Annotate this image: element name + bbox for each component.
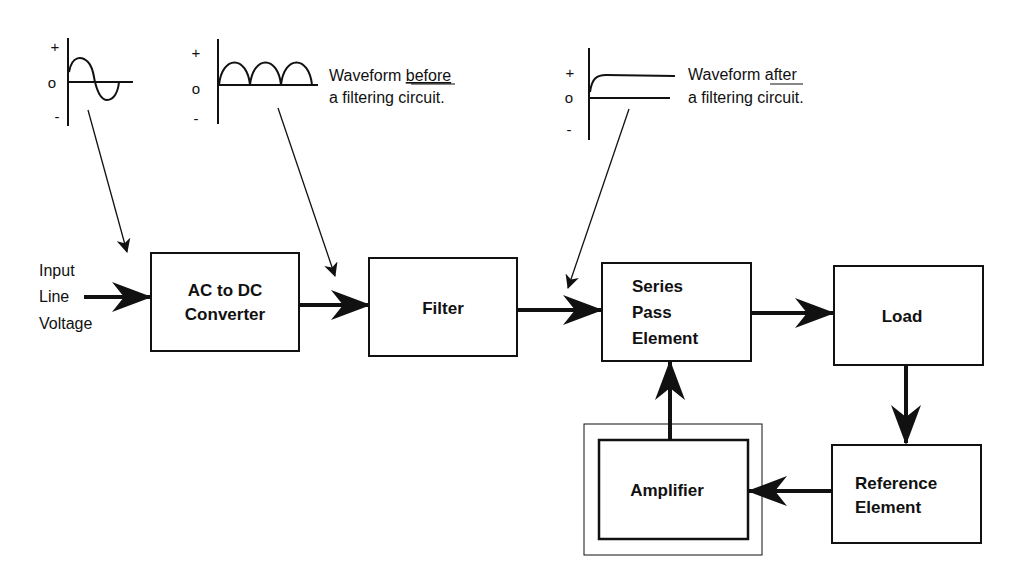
waveform-ac-sine: + o -	[48, 38, 133, 126]
svg-text:Amplifier: Amplifier	[630, 481, 704, 500]
power-supply-block-diagram: + o - + o - Waveform before a filtering …	[0, 0, 1030, 588]
svg-text:Element: Element	[632, 329, 698, 348]
axis-zero: o	[565, 89, 573, 106]
block-series-pass-element: Series Pass Element	[602, 263, 751, 361]
svg-text:AC to DC: AC to DC	[188, 281, 263, 300]
svg-text:Series: Series	[632, 277, 683, 296]
input-label-3: Voltage	[39, 315, 92, 332]
axis-plus: +	[566, 64, 575, 81]
caption-after-line2: a filtering circuit.	[688, 89, 804, 106]
svg-text:Element: Element	[855, 498, 921, 517]
input-label-1: Input	[39, 262, 75, 279]
waveform-filtered: + o - Waveform after a filtering circuit…	[565, 48, 804, 140]
waveform-rectified: + o - Waveform before a filtering circui…	[192, 39, 455, 127]
block-load: Load	[834, 266, 983, 365]
svg-text:Load: Load	[882, 307, 923, 326]
pointer-arrow	[568, 109, 629, 288]
block-filter: Filter	[369, 258, 517, 356]
axis-minus: -	[55, 108, 60, 125]
block-reference-element: Reference Element	[832, 445, 981, 543]
pointer-arrow	[88, 110, 127, 252]
block-ac-dc-converter: AC to DC Converter	[151, 253, 299, 351]
axis-minus: -	[194, 110, 199, 127]
axis-plus: +	[192, 44, 201, 61]
axis-zero: o	[192, 80, 200, 97]
axis-minus: -	[567, 121, 572, 138]
svg-text:Converter: Converter	[185, 305, 266, 324]
input-label-2: Line	[39, 288, 69, 305]
block-amplifier: Amplifier	[584, 424, 762, 555]
caption-before-line2: a filtering circuit.	[329, 89, 445, 106]
axis-zero: o	[48, 74, 56, 91]
axis-plus: +	[51, 38, 60, 55]
caption-after: Waveform after	[688, 66, 797, 83]
pointer-arrow	[278, 108, 335, 276]
svg-text:Pass: Pass	[632, 303, 672, 322]
caption-before: Waveform before	[329, 67, 451, 84]
svg-text:Filter: Filter	[422, 299, 464, 318]
svg-text:Reference: Reference	[855, 474, 937, 493]
